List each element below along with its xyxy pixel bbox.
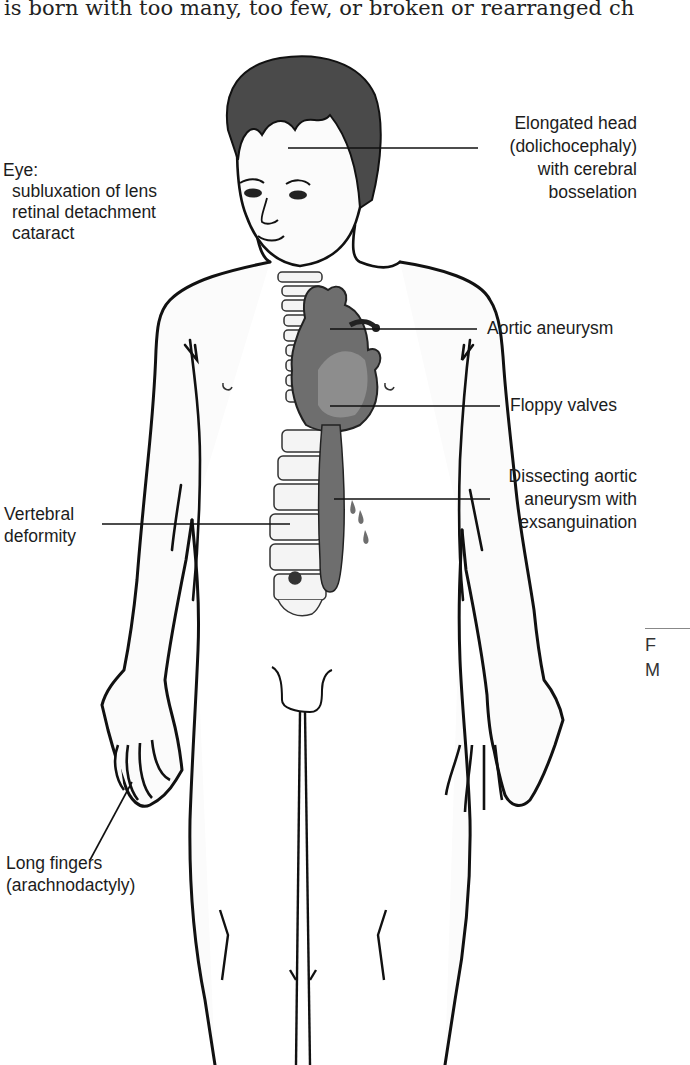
side-caption-line1: F: [645, 635, 656, 656]
label-head-line: bosselation: [510, 181, 637, 204]
heart: [292, 286, 381, 431]
label-eye-item: subluxation of lens: [3, 181, 157, 202]
right-eye: [289, 191, 307, 200]
label-eye-item: retinal detachment: [3, 202, 157, 223]
label-head: Elongated head (dolichocephaly) with cer…: [510, 112, 637, 204]
head: [227, 56, 381, 266]
label-head-line: (dolichocephaly): [510, 135, 637, 158]
label-dissecting-line: exsanguination: [509, 511, 637, 534]
label-fingers-line: (arachnodactyly): [6, 874, 135, 896]
descending-aorta: [319, 425, 344, 592]
label-head-line: with cerebral: [510, 158, 637, 181]
left-eye: [244, 189, 262, 198]
label-dissecting-line: aneurysm with: [509, 488, 637, 511]
side-caption-rule: [645, 628, 690, 629]
label-floppy-valves: Floppy valves: [510, 395, 617, 416]
label-fingers-line: Long fingers: [6, 852, 135, 874]
label-dissecting-line: Dissecting aortic: [509, 465, 637, 488]
label-aortic-aneurysm: Aortic aneurysm: [487, 318, 613, 339]
label-head-line: Elongated head: [510, 112, 637, 135]
label-vertebral-deformity: Vertebral deformity: [4, 503, 76, 547]
label-vertebral-line: Vertebral: [4, 503, 76, 525]
label-dissecting-aneurysm: Dissecting aortic aneurysm with exsangui…: [509, 465, 637, 534]
side-caption-line2: M: [645, 660, 660, 681]
label-eye-item: cataract: [3, 223, 157, 244]
label-vertebral-line: deformity: [4, 525, 76, 547]
label-eye-title: Eye:: [3, 160, 157, 181]
blood-drops: [350, 500, 368, 544]
label-eye: Eye: subluxation of lens retinal detachm…: [3, 160, 157, 244]
knees: [220, 910, 386, 980]
groin: [272, 667, 332, 1065]
label-long-fingers: Long fingers (arachnodactyly): [6, 852, 135, 896]
